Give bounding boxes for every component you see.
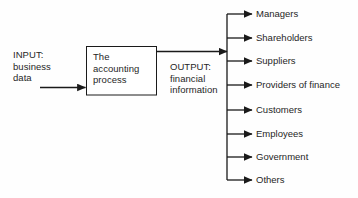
recipient-label: Shareholders xyxy=(256,32,313,43)
branch-arrow-group xyxy=(227,14,252,180)
input-label: INPUT: business data xyxy=(13,49,51,84)
accounting-process-diagram: INPUT: business data The accounting proc… xyxy=(0,0,358,198)
recipient-label: Government xyxy=(256,151,308,162)
process-box-label: The accounting process xyxy=(93,51,139,86)
recipient-label: Employees xyxy=(256,128,303,139)
recipient-label: Managers xyxy=(256,8,298,19)
recipient-label: Others xyxy=(256,174,285,185)
output-label: OUTPUT: financial information xyxy=(170,61,218,96)
recipient-label: Customers xyxy=(256,104,302,115)
recipient-label: Suppliers xyxy=(256,55,296,66)
recipient-label: Providers of finance xyxy=(256,79,340,90)
diagram-canvas xyxy=(0,0,358,198)
